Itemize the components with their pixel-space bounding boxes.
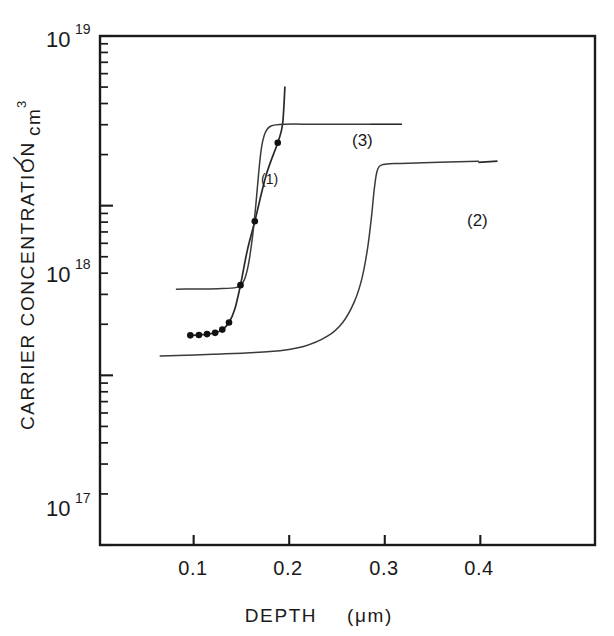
data-point-marker — [226, 319, 233, 326]
curve-label-1: (1) — [261, 171, 278, 187]
x-axis-title-group: DEPTH (μm) — [245, 605, 393, 626]
y-axis-title-unit-group: cm — [23, 107, 44, 136]
curve-2 — [160, 161, 478, 356]
x-tick-label-0.1: 0.1 — [178, 557, 207, 579]
y-axis-title-unit-exp-group: 3 — [14, 101, 29, 108]
y-axis-title-unit-exponent: 3 — [14, 101, 29, 108]
y-axis-title: CARRIER CONCENTRATION — [17, 141, 38, 430]
data-point-marker — [212, 330, 219, 337]
data-point-marker — [237, 282, 244, 289]
data-point-marker — [196, 332, 203, 339]
y-label-1e19-exponent: 19 — [75, 21, 91, 37]
data-point-marker — [187, 332, 194, 339]
data-point-marker — [274, 139, 281, 146]
y-label-1e17-base: 10 — [46, 496, 70, 521]
plot-frame — [100, 36, 595, 545]
x-axis-tick-labels: 0.1 0.2 0.3 0.4 — [178, 557, 493, 579]
x-axis-title: DEPTH — [245, 605, 317, 626]
curve-label-leader-lines — [370, 124, 497, 162]
y-axis-decade-labels: 10 19 10 18 10 17 — [46, 21, 91, 521]
curve-3 — [176, 124, 370, 289]
y-axis-title-unit: cm — [23, 107, 44, 136]
curve-labels-group: (1) (2) (3) — [261, 131, 488, 230]
leader-line-2 — [478, 161, 497, 162]
data-point-marker — [219, 326, 226, 333]
curve-label-2: (2) — [467, 211, 488, 230]
data-point-marker — [204, 331, 211, 338]
x-tick-label-0.3: 0.3 — [369, 557, 398, 579]
curve-1 — [190, 87, 285, 335]
y-axis-title-group: CARRIER CONCENTRATION — [17, 141, 38, 430]
y-label-1e18-exponent: 18 — [75, 256, 91, 272]
y-axis-ticks — [100, 36, 113, 545]
data-curves-group — [160, 87, 478, 356]
carrier-concentration-depth-profile-chart: 10 19 10 18 10 17 0.1 0.2 0.3 0.4 DEPTH … — [0, 0, 614, 636]
x-tick-label-0.2: 0.2 — [273, 557, 302, 579]
data-point-marker — [252, 218, 259, 225]
x-tick-label-0.4: 0.4 — [464, 557, 493, 579]
curve-label-3: (3) — [352, 131, 373, 150]
figure-container: 10 19 10 18 10 17 0.1 0.2 0.3 0.4 DEPTH … — [0, 0, 614, 636]
x-axis-ticks — [194, 535, 481, 545]
y-label-1e19-base: 10 — [46, 27, 70, 52]
y-label-1e18-base: 10 — [46, 262, 70, 287]
y-label-1e17-exponent: 17 — [75, 490, 91, 506]
x-axis-title-unit: (μm) — [347, 605, 393, 626]
